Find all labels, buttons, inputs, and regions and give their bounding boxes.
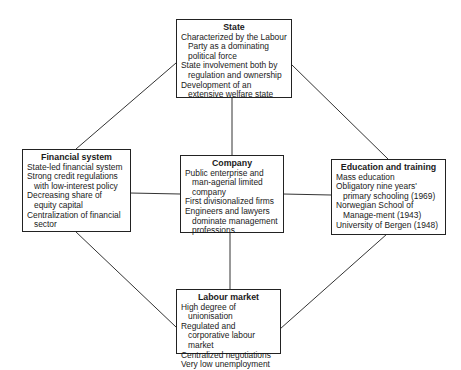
labour-market-item: High degree of unionisation [181, 303, 276, 322]
financial-system-item: Strong credit regulations with low-inter… [27, 172, 126, 191]
education-training-item: Obligatory nine years' primary schooling… [336, 182, 441, 201]
labour-market-item: Very low unemployment [181, 360, 276, 370]
company-box: Company Public enterprise and man-ageria… [180, 155, 284, 233]
education-training-item: Norwegian School of Manage-ment (1943) [336, 201, 441, 220]
line-state-education [291, 64, 388, 159]
financial-system-item: Decreasing share of equity capital [27, 191, 126, 210]
state-item: State involvement both by regulation and… [181, 61, 287, 80]
financial-system-box: Financial system State-led financial sys… [22, 149, 131, 232]
financial-system-item: Centralization of financial sector [27, 211, 126, 230]
line-education-labour [280, 234, 387, 329]
line-financial-labour [75, 231, 176, 327]
state-item: Characterized by the Labour Party as a d… [181, 33, 287, 62]
education-training-box: Education and training Mass education Ob… [331, 159, 446, 235]
line-company-education [283, 194, 331, 195]
company-item: Engineers and lawyers dominate managemen… [185, 207, 279, 236]
line-financial-company [130, 193, 180, 194]
labour-market-box: Labour market High degree of unionisatio… [176, 289, 281, 354]
state-box: State Characterized by the Labour Party … [176, 19, 292, 98]
line-state-financial [76, 63, 176, 149]
labour-market-item: Regulated and corporative labour market [181, 322, 276, 351]
company-item: Public enterprise and man-agerial limite… [185, 169, 279, 198]
education-training-item: University of Bergen (1948) [336, 221, 441, 231]
state-item: Development of an extensive welfare stat… [181, 81, 287, 100]
